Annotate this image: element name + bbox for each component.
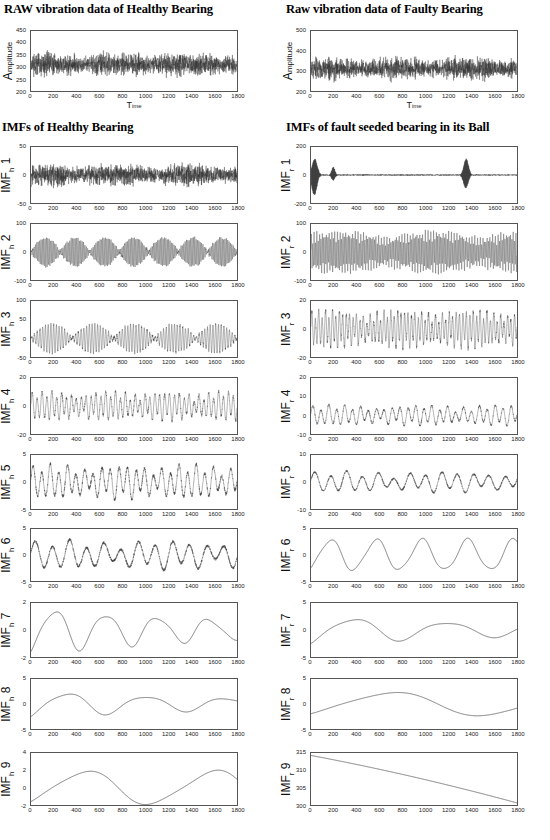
y-tick: 0 [284, 172, 306, 178]
x-tick: 800 [117, 205, 127, 211]
x-tick: 400 [71, 93, 81, 99]
x-tick: 1400 [185, 583, 198, 589]
x-tick: 400 [351, 282, 361, 288]
x-tick: 400 [351, 731, 361, 737]
x-tick: 1200 [442, 731, 455, 737]
x-tick: 1600 [208, 807, 221, 813]
x-tick: 1000 [139, 359, 152, 365]
y-tick: 20 [284, 297, 306, 303]
y-axis-label: IMFh 9 [0, 752, 16, 806]
x-tick: 1800 [231, 731, 244, 737]
y-tick: -100 [4, 278, 26, 284]
x-tick: 1600 [488, 807, 501, 813]
plot-area [310, 146, 518, 204]
chart-imf-r-5: IMFr 5-100100200400600800100012001400160… [280, 454, 518, 530]
plot-area [30, 30, 238, 92]
chart-imf-r-2: IMFr 2-100010002004006008001000120014001… [280, 223, 518, 301]
y-tick: -5 [284, 655, 306, 661]
chart-imf-h-4: IMFh 4-200200200400600800100012001400160… [0, 377, 238, 455]
x-tick: 400 [351, 659, 361, 665]
y-axis-label: IMFr 9 [280, 752, 296, 806]
x-tick: 800 [397, 807, 407, 813]
y-tick: 5 [284, 525, 306, 531]
x-tick: 1400 [185, 436, 198, 442]
plot-area [30, 454, 238, 510]
y-tick: 0 [284, 627, 306, 633]
y-tick: 50 [4, 143, 26, 149]
x-axis-label: Time [126, 100, 141, 110]
chart-raw-faulty: Amplitude2003004005000200400600800100012… [280, 30, 518, 112]
x-tick: 1200 [442, 359, 455, 365]
plot-area [310, 602, 518, 658]
x-tick: 800 [117, 436, 127, 442]
y-tick: 5 [284, 675, 306, 681]
x-tick: 1800 [231, 93, 244, 99]
x-tick: 600 [374, 436, 384, 442]
x-tick: 0 [308, 511, 311, 517]
chart-imf-r-4: IMFr 4-100102002004006008001000120014001… [280, 377, 518, 455]
x-tick: 200 [328, 807, 338, 813]
x-tick: 600 [94, 659, 104, 665]
x-tick: 1200 [162, 659, 175, 665]
x-tick: 1800 [511, 359, 524, 365]
x-tick: 200 [48, 359, 58, 365]
x-tick: 800 [117, 282, 127, 288]
x-tick: 1600 [208, 359, 221, 365]
y-tick: -5 [284, 579, 306, 585]
x-tick: 0 [28, 511, 31, 517]
x-tick: 200 [328, 282, 338, 288]
x-axis-label: Time [406, 100, 421, 110]
y-tick: 350 [4, 52, 26, 58]
plot-area [30, 377, 238, 435]
chart-raw-healthy: Amplitude2002503003504004500200400600800… [0, 30, 238, 112]
x-tick: 1800 [231, 359, 244, 365]
x-tick: 1200 [162, 583, 175, 589]
plot-area [30, 752, 238, 806]
y-tick: 20 [4, 374, 26, 380]
y-tick: -10 [284, 507, 306, 513]
x-tick: 1800 [231, 282, 244, 288]
x-tick: 200 [328, 583, 338, 589]
x-tick: 0 [308, 583, 311, 589]
x-tick: 0 [308, 659, 311, 665]
x-tick: 1600 [488, 511, 501, 517]
x-tick: 1400 [185, 659, 198, 665]
chart-imf-h-1: IMFh 1-500500200400600800100012001400160… [0, 146, 238, 224]
x-tick: 800 [117, 807, 127, 813]
x-tick: 1400 [465, 282, 478, 288]
x-tick: 0 [308, 436, 311, 442]
plot-area [310, 377, 518, 435]
x-tick: 600 [374, 659, 384, 665]
x-tick: 1200 [162, 436, 175, 442]
y-tick: 0 [4, 701, 26, 707]
x-tick: 1200 [442, 282, 455, 288]
x-tick: 1400 [465, 583, 478, 589]
y-tick: 0 [284, 249, 306, 255]
x-tick: 0 [28, 282, 31, 288]
x-tick: 1600 [488, 359, 501, 365]
x-tick: 400 [351, 511, 361, 517]
x-tick: 200 [48, 807, 58, 813]
y-tick: 200 [284, 143, 306, 149]
plot-area [30, 678, 238, 730]
x-tick: 200 [48, 659, 58, 665]
y-tick: 10 [284, 451, 306, 457]
y-tick: 5 [4, 525, 26, 531]
x-tick: 0 [28, 583, 31, 589]
x-tick: 600 [374, 93, 384, 99]
x-tick: 1800 [231, 205, 244, 211]
y-tick: 0 [4, 336, 26, 342]
y-tick: 20 [284, 374, 306, 380]
y-tick: 0 [284, 701, 306, 707]
chart-imf-h-3: IMFh 3-500501000200400600800100012001400… [0, 300, 238, 378]
x-tick: 1000 [419, 205, 432, 211]
x-tick: 0 [28, 807, 31, 813]
chart-imf-h-8: IMFh 8-505020040060080010001200140016001… [0, 678, 238, 750]
x-tick: 0 [308, 93, 311, 99]
y-tick: 200 [284, 89, 306, 95]
x-tick: 1200 [162, 731, 175, 737]
x-tick: 800 [117, 731, 127, 737]
y-axis-label: IMFh 3 [0, 300, 16, 358]
plot-area [310, 528, 518, 582]
x-tick: 1200 [162, 282, 175, 288]
